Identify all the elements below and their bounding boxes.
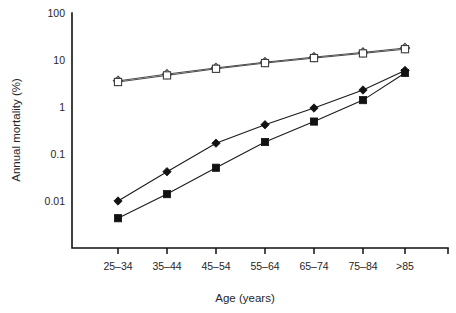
chart-tick-marks <box>118 248 448 254</box>
y-tick-label: 0.1 <box>50 148 65 160</box>
data-point-open-square <box>114 78 121 85</box>
series-filled-diamond-series <box>114 66 409 205</box>
series-open-square-series <box>114 46 408 86</box>
data-point-open-square <box>261 59 268 66</box>
data-point-filled-square <box>261 138 268 145</box>
data-point-open-square <box>359 50 366 57</box>
x-tick-label: 45–54 <box>201 260 230 272</box>
y-axis-title: Annual mortality (%) <box>10 78 22 182</box>
data-point-filled-square <box>114 215 121 222</box>
x-axis-title: Age (years) <box>215 292 275 304</box>
chart-series-layer <box>113 43 409 221</box>
data-point-filled-diamond <box>212 139 220 147</box>
x-tick-label: 35–44 <box>152 260 181 272</box>
x-tick-label: 75–84 <box>348 260 377 272</box>
y-tick-label: 0.01 <box>45 195 66 207</box>
x-axis-tick-labels: 25–3435–4445–5455–6465–7475–84>85 <box>103 260 414 272</box>
x-tick-label: 55–64 <box>250 260 279 272</box>
x-tick-label: 25–34 <box>103 260 132 272</box>
y-tick-label: 100 <box>47 7 65 19</box>
data-point-open-square <box>212 65 219 72</box>
data-point-filled-diamond <box>163 168 171 176</box>
data-point-filled-diamond <box>114 197 122 205</box>
data-point-filled-square <box>212 164 219 171</box>
y-tick-label: 10 <box>53 54 65 66</box>
data-point-filled-square <box>163 191 170 198</box>
data-point-open-square <box>310 54 317 61</box>
data-point-filled-square <box>401 69 408 76</box>
data-point-filled-diamond <box>359 86 367 94</box>
data-point-open-square <box>163 72 170 79</box>
x-tick-label: 65–74 <box>299 260 328 272</box>
data-point-filled-square <box>310 118 317 125</box>
mortality-log-line-chart: 0.010.1110100 25–3435–4445–5455–6465–747… <box>0 0 456 313</box>
data-point-filled-square <box>359 97 366 104</box>
data-point-filled-diamond <box>261 121 269 129</box>
data-point-filled-diamond <box>310 104 318 112</box>
chart-figure: 0.010.1110100 25–3435–4445–5455–6465–747… <box>0 0 456 313</box>
data-point-open-square <box>401 46 408 53</box>
y-axis-tick-labels: 0.010.1110100 <box>45 7 66 207</box>
x-tick-label: >85 <box>396 260 414 272</box>
y-tick-label: 1 <box>59 101 65 113</box>
